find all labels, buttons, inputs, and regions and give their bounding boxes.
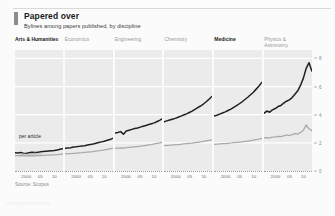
x-tick-label: 05 [187,174,192,179]
x-axis-line [15,171,63,173]
panel-arts-and-humanities: Arts & Humanitiesper articleper author20… [15,45,63,171]
panel-medicine: Medicine20000510 [214,45,262,171]
x-tick-label: 10 [201,174,206,179]
y-tick-mark [314,86,317,87]
x-tick-label: 2000 [71,174,81,179]
top-divider [13,8,331,9]
series-label-per-author: per author [19,151,42,157]
x-tick-label: 10 [251,174,256,179]
x-tick-label: 05 [237,174,242,179]
panel-chemistry: Chemistry20000510 [164,45,212,171]
panel-economics: Economics20000510 [65,45,113,171]
page-subtitle: Bylines among papers published, by disci… [24,23,141,29]
y-tick-mark [314,114,317,115]
x-axis-ticks: 20000510 [214,174,262,182]
x-tick-label: 05 [38,174,43,179]
series-label-per-article: per article [19,133,41,139]
x-tick-label: 05 [287,174,292,179]
y-tick-label: 4 [319,112,322,117]
y-tick-label: 2 [319,140,322,145]
x-tick-label: 2000 [221,174,231,179]
y-tick-mark [314,171,317,172]
x-axis-ticks: 20000510 [15,174,63,182]
small-multiples-panel-row: Arts & Humanitiesper articleper author20… [15,45,312,171]
x-tick-label: 2000 [121,174,131,179]
panel-title: Engineering [115,37,167,43]
chart-figure: Papered over Bylines among papers publis… [0,0,335,216]
x-tick-label: 05 [138,174,143,179]
page-title: Papered over [24,11,79,21]
x-tick-label: 05 [88,174,93,179]
watermark-label: tradingeconomics [5,200,51,206]
x-tick-label: 10 [52,174,57,179]
y-tick-label: 0 [319,169,322,174]
x-axis-line [115,171,163,173]
x-tick-label: 2000 [21,174,31,179]
plot-area [65,50,113,171]
panel-title: Arts & Humanities [15,37,67,43]
source-note: Source: Scopus [15,182,49,187]
x-axis-ticks: 20000510 [264,174,312,182]
y-tick-label: 8 [319,56,322,61]
x-axis-line [214,171,262,173]
y-tick-mark [314,58,317,59]
panel-engineering: Engineering20000510 [115,45,163,171]
plot-area [164,50,212,171]
x-axis-ticks: 20000510 [164,174,212,182]
x-axis-line [65,171,113,173]
plot-area [264,50,312,171]
title-accent-marker [14,12,18,25]
panel-physics-and-astronomy: Physics & Astronomy20000510 [264,45,312,171]
x-tick-label: 2000 [271,174,281,179]
x-axis-ticks: 20000510 [115,174,163,182]
y-tick-mark [314,142,317,143]
x-tick-label: 2000 [171,174,181,179]
plot-area [214,50,262,171]
x-axis-line [164,171,212,173]
x-tick-label: 10 [301,174,306,179]
panel-title: Economics [65,37,117,43]
panel-title: Chemistry [164,37,216,43]
x-tick-label: 10 [152,174,157,179]
x-axis-line [264,171,312,173]
x-axis-ticks: 20000510 [65,174,113,182]
panel-title: Medicine [214,37,266,43]
plot-area [115,50,163,171]
x-tick-label: 10 [102,174,107,179]
panel-title: Physics & Astronomy [264,37,316,48]
y-axis: 86420 [314,45,334,171]
y-tick-label: 6 [319,84,322,89]
